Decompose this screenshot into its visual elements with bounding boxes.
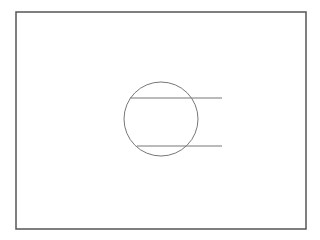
frame-border xyxy=(16,12,306,229)
circle-shape xyxy=(124,82,198,156)
diagram-canvas xyxy=(0,0,320,240)
